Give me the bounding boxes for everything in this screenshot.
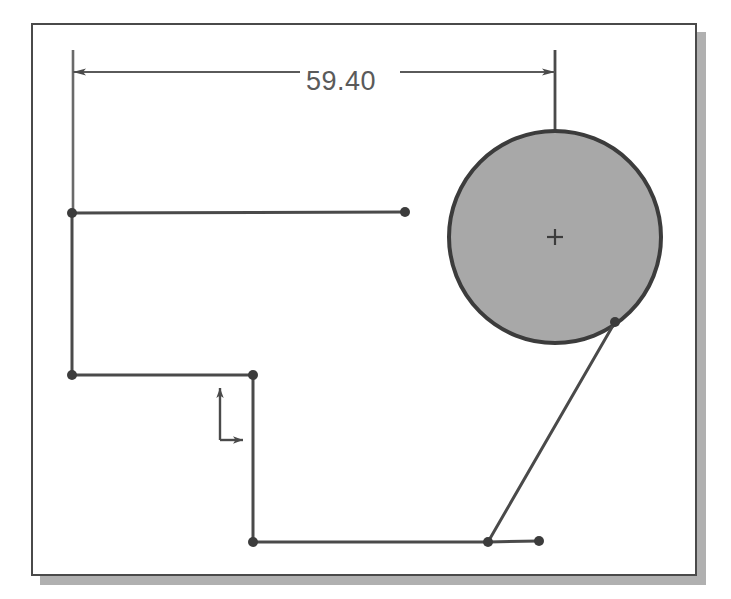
cad-viewport: 59.40 [0,0,731,599]
dimension-value-label[interactable]: 59.40 [306,66,376,97]
vertex-step-corner[interactable] [248,370,258,380]
sketch-polyline[interactable] [72,213,488,542]
sketch-line-diagonal[interactable] [488,322,615,542]
vertex-top-right-end[interactable] [400,207,410,217]
vertex-mid-left[interactable] [67,370,77,380]
sketch-line-bottom-horizontal[interactable] [488,541,539,542]
vertex-bottom-right-end[interactable] [534,536,544,546]
sketch-line-top-horizontal[interactable] [72,212,405,213]
vertex-bottom-junction[interactable] [483,537,493,547]
vertex-bottom-left[interactable] [248,537,258,547]
vertex-on-circle[interactable] [610,317,620,327]
origin-axis-indicator [220,388,243,440]
vertex-top-left[interactable] [67,208,77,218]
